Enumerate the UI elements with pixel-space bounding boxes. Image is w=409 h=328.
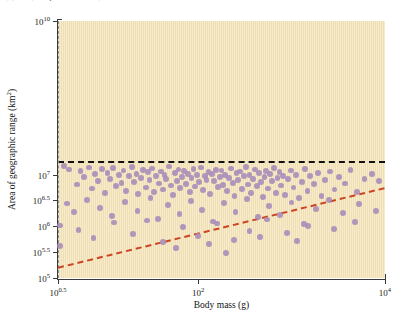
scatter-point [302,166,308,172]
scatter-point [271,165,277,171]
scatter-point [126,173,132,179]
scatter-point [130,231,136,237]
scatter-point [57,243,63,249]
scatter-point [198,165,204,171]
x-axis-title: Body mass (g) [58,300,385,310]
scatter-point [177,211,183,217]
scatter-point [102,190,108,196]
scatter-point [243,164,249,170]
minimum-body-mass-cutoff [58,21,59,278]
scatter-point [155,216,161,222]
scatter-point [74,182,80,188]
scatter-point [239,186,245,192]
scatter-point [223,250,229,256]
scatter-point [311,181,317,187]
x-axis-tick [58,279,59,284]
x-axis-tick [198,279,199,284]
scatter-point [285,176,291,182]
scatter-point [313,206,319,212]
y-axis-tick-label: 106 [38,220,50,232]
scatter-point [105,170,111,176]
y-axis-tick-label: 1010 [34,15,50,27]
scatter-point [129,164,135,170]
scatter-point [221,200,227,206]
scatter-point [199,207,205,213]
scatter-point [84,197,90,203]
scatter-point [266,203,272,209]
scatter-point [119,180,125,186]
scatter-point [282,192,288,198]
scatter-point [231,237,237,243]
scatter-point [135,208,141,214]
scatter-point [244,196,250,202]
scatter-point [99,166,105,172]
scatter-point [163,176,169,182]
scatter-point [188,198,194,204]
scatter-point [273,190,279,196]
x-axis-tick-label: 104 [379,286,391,298]
scatter-point [257,234,263,240]
scatter-point [267,171,273,177]
scatter-point [213,167,219,173]
scatter-point [284,230,290,236]
scatter-point [260,194,266,200]
scatter-point [170,192,176,198]
scatter-point [352,219,358,225]
x-axis-tick-label: 102 [192,286,204,298]
panel-texture [58,21,385,278]
scatter-point [369,171,375,177]
scatter-point [331,226,337,232]
scatter-point [204,177,210,183]
scatter-point [71,209,77,215]
scatter-point [195,233,201,239]
figure-panel: (b) Bats (Chiroptera, Mammalia) 10101071… [0,0,409,328]
scatter-point [354,189,360,195]
scatter-point [200,187,206,193]
scatter-point [156,181,162,187]
scatter-point [153,173,159,179]
scatter-point [122,199,128,205]
scatter-point [294,238,300,244]
scatter-point [160,187,166,193]
scatter-point [305,188,311,194]
scatter-point [342,181,348,187]
scatter-point [256,170,262,176]
scatter-point [233,209,239,215]
scatter-point [91,235,97,241]
scatter-point [89,186,95,192]
y-axis-title: Area of geographic range (km2) [5,21,19,278]
scatter-point [214,221,220,227]
scatter-point [151,189,157,195]
scatter-point [144,218,150,224]
scatter-point [340,210,346,216]
scatter-point [373,208,379,214]
scatter-point [224,188,230,194]
figure-caption: (b) Bats (Chiroptera, Mammalia) [6,0,266,3]
scatter-point [97,205,103,211]
scatter-point [86,165,92,171]
scatter-point [160,239,166,245]
scatter-point [319,193,325,199]
plot-area [58,21,385,278]
scatter-point [277,212,283,218]
scatter-point [187,189,193,195]
scatter-point [113,183,119,189]
scatter-point [131,179,137,185]
scatter-point [362,176,368,182]
scatter-point [207,191,213,197]
y-axis-tick-label: 105 [38,272,50,284]
scatter-point [116,172,122,178]
scatter-point [110,165,116,171]
y-axis-tick-label: 105.5 [33,246,50,258]
scatter-point [183,181,189,187]
scatter-point [356,201,362,207]
scatter-point [173,245,179,251]
scatter-point [228,166,234,172]
scatter-point [293,172,299,178]
scatter-point [258,179,264,185]
scatter-point [245,182,251,188]
x-axis-tick [385,279,386,284]
scatter-point [269,178,275,184]
scatter-point [250,176,256,182]
scatter-point [315,170,321,176]
